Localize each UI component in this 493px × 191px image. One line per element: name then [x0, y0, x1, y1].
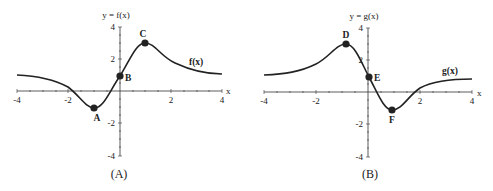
point-label: A: [94, 113, 101, 123]
x-tick-label: 4: [220, 95, 225, 105]
chart-a: -4 -2 2 4 4 2 -2 -4 y = f(x) x f(x) A B …: [13, 10, 231, 181]
y-tick-label: 4: [359, 23, 364, 33]
curve-label: g(x): [442, 66, 458, 77]
y-tick-label: 4: [111, 22, 116, 32]
point-a: [90, 104, 97, 111]
x-tick-label: 2: [418, 96, 423, 106]
y-tick-label: -4: [356, 152, 364, 162]
figure: -4 -2 2 4 4 2 -2 -4 y = f(x) x f(x) A B …: [0, 0, 493, 191]
y-tick-label: -2: [108, 118, 116, 128]
y-axis-label: y = g(x): [349, 11, 378, 21]
panel-label-b: (B): [362, 167, 378, 181]
point-label: D: [343, 30, 350, 40]
x-axis-label: x: [477, 88, 482, 98]
y-tick-label: -2: [356, 119, 364, 129]
panel-label-a: (A): [111, 167, 128, 181]
x-tick-label: -2: [64, 95, 72, 105]
point-b: [116, 72, 123, 79]
point-d: [342, 40, 349, 47]
curve-label: f(x): [189, 57, 203, 68]
point-label: F: [389, 115, 395, 125]
y-tick-label: 2: [111, 54, 116, 64]
point-label: C: [140, 29, 147, 39]
y-tick-label: -4: [108, 151, 116, 161]
x-tick-label: 4: [470, 96, 475, 106]
point-f: [388, 106, 395, 113]
point-label: E: [374, 73, 380, 83]
x-tick-label: 2: [169, 95, 174, 105]
point-label: B: [125, 73, 132, 83]
x-tick-label: -4: [260, 96, 268, 106]
point-c: [141, 39, 148, 46]
x-tick-label: -2: [312, 96, 320, 106]
x-tick-label: -4: [13, 95, 21, 105]
y-axis-label: y = f(x): [102, 10, 130, 20]
x-axis-label: x: [226, 86, 231, 96]
chart-b: -4 -2 2 4 4 2 -2 -4 y = g(x) x g(x) D E …: [260, 11, 482, 181]
point-e: [365, 73, 372, 80]
